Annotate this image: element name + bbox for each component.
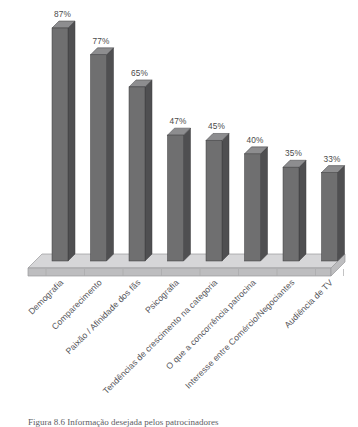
bar-side-face [184, 128, 191, 261]
bar-column [283, 160, 306, 261]
bar-value-label: 40% [246, 135, 264, 145]
bar-column [322, 166, 345, 261]
bar-front-face [245, 154, 261, 261]
bar-front-face [322, 173, 338, 261]
bar-front-face [283, 167, 299, 261]
bar-column [52, 21, 75, 261]
bar-value-label: 87% [54, 9, 72, 19]
bar-side-face [68, 21, 75, 261]
bar-column [91, 48, 114, 261]
bar-front-face [168, 135, 184, 261]
bar-column [129, 80, 152, 261]
bar-value-label: 45% [208, 121, 226, 131]
bar-value-label: 47% [169, 116, 187, 126]
bar-column [206, 133, 229, 261]
figure-caption: Figura 8.6 Informação desejada pelos pat… [28, 417, 219, 427]
bar-side-face [222, 133, 229, 261]
bar-side-face [299, 160, 306, 261]
bar-front-face [52, 28, 68, 261]
bar-front-face [129, 87, 145, 261]
bar-side-face [261, 147, 268, 261]
floor-front-face [28, 268, 331, 276]
bar-side-face [107, 48, 114, 261]
bar-value-label: 65% [131, 68, 149, 78]
bar-front-face [91, 55, 107, 261]
bar-front-face [206, 140, 222, 261]
bar-column [168, 128, 191, 261]
bar-side-face [338, 166, 345, 261]
chart-canvas: 87%77%65%47%45%40%35%33% DemografiaCompa… [0, 0, 358, 427]
bar-value-label: 77% [92, 36, 110, 46]
bar-side-face [145, 80, 152, 261]
bar-value-label: 35% [285, 148, 303, 158]
bar-chart-figure: 87%77%65%47%45%40%35%33% DemografiaCompa… [0, 0, 358, 427]
bar-column [245, 147, 268, 261]
bar-value-label: 33% [323, 154, 341, 164]
